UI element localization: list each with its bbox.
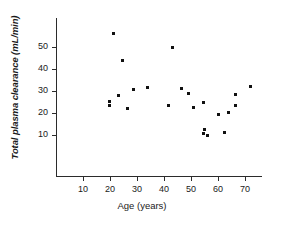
x-axis-tick-label: 20: [100, 184, 120, 194]
x-axis-tick: [83, 176, 84, 181]
data-point: [202, 101, 205, 104]
data-point: [126, 107, 129, 110]
x-axis-tick: [137, 176, 138, 181]
data-point: [227, 111, 230, 114]
x-axis-tick-label: 70: [235, 184, 255, 194]
y-axis-tick: [52, 135, 57, 136]
y-axis-title-container: Total plasma clearance (mL/min): [2, 0, 28, 175]
data-point: [234, 104, 237, 107]
data-point: [249, 85, 252, 88]
y-axis-tick-label: 20: [26, 107, 48, 117]
x-axis-tick: [164, 176, 165, 181]
data-point: [206, 134, 209, 137]
y-axis-tick: [52, 69, 57, 70]
data-point: [202, 132, 205, 135]
y-axis-tick-label: 50: [26, 41, 48, 51]
x-axis-tick-label: 30: [127, 184, 147, 194]
x-axis-tick-label: 40: [154, 184, 174, 194]
data-point: [108, 100, 111, 103]
y-axis-title: Total plasma clearance (mL/min): [10, 16, 21, 160]
data-point: [180, 87, 183, 90]
x-axis-line: [56, 176, 262, 177]
data-point: [167, 104, 170, 107]
x-axis-tick: [110, 176, 111, 181]
data-point: [121, 59, 124, 62]
data-point: [117, 94, 120, 97]
x-axis-tick-label: 50: [181, 184, 201, 194]
data-point: [108, 104, 111, 107]
y-axis-line: [56, 18, 57, 176]
x-axis-tick: [218, 176, 219, 181]
x-axis-tick-label: 60: [208, 184, 228, 194]
data-point: [217, 113, 220, 116]
data-point: [223, 131, 226, 134]
y-axis-tick: [52, 47, 57, 48]
y-axis-tick-label: 40: [26, 63, 48, 73]
x-axis-title: Age (years): [0, 200, 284, 211]
data-point: [234, 93, 237, 96]
data-point: [192, 106, 195, 109]
data-point: [203, 128, 206, 131]
y-axis-tick: [52, 91, 57, 92]
y-axis-tick-label: 30: [26, 85, 48, 95]
data-point: [171, 46, 174, 49]
y-axis-tick-label: 10: [26, 129, 48, 139]
data-point: [146, 86, 149, 89]
data-point: [112, 32, 115, 35]
x-axis-tick-label: 10: [73, 184, 93, 194]
scatter-plot-figure: Total plasma clearance (mL/min) 10203040…: [0, 0, 284, 228]
data-point: [187, 92, 190, 95]
x-axis-tick: [245, 176, 246, 181]
x-axis-tick: [191, 176, 192, 181]
y-axis-tick: [52, 113, 57, 114]
data-point: [132, 88, 135, 91]
